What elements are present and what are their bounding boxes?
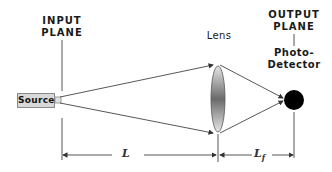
- source-box: Source: [17, 93, 55, 108]
- lens-label: Lens: [200, 30, 238, 42]
- dimension-L-label: L: [122, 147, 130, 160]
- output-plane-label-line1: OUTPUT: [264, 9, 324, 21]
- dimension-Lf-main: L: [254, 147, 262, 160]
- photodetector-label-line1: Photo-: [262, 47, 326, 59]
- output-plane-label: OUTPUT PLANE: [264, 9, 324, 33]
- photodetector-label-line2: Detector: [262, 59, 326, 71]
- input-plane-label-line2: PLANE: [36, 27, 88, 39]
- source-aperture: [55, 97, 61, 103]
- input-plane-label: INPUT PLANE: [36, 15, 88, 39]
- dimension-Lf-label: Lf: [254, 147, 265, 162]
- dimension-Lf-subscript: f: [262, 152, 265, 162]
- photodetector-label: Photo- Detector: [262, 47, 326, 71]
- output-plane-label-line2: PLANE: [264, 21, 324, 33]
- incident-rays: [60, 65, 213, 133]
- focused-rays: [220, 65, 283, 133]
- photodetector-icon: [284, 90, 304, 110]
- lens-icon: [211, 66, 225, 132]
- input-plane-label-line1: INPUT: [36, 15, 88, 27]
